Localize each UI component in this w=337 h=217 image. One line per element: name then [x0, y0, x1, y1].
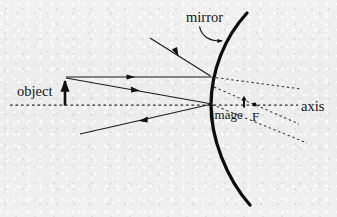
- vertex-incident-ray: [66, 78, 212, 104]
- diagram-canvas: [0, 0, 337, 217]
- reflected-ray-upper: [150, 38, 211, 76]
- reflected-ray-upper-arrowhead: [172, 47, 179, 56]
- object-label: object: [17, 84, 52, 99]
- reflected-ray-lower-arrowhead: [139, 116, 148, 122]
- focal-point-dot: [253, 103, 257, 107]
- axis-label: axis: [301, 99, 324, 114]
- focal-point-label: F: [252, 110, 259, 123]
- image-label: image: [211, 108, 243, 121]
- virtual-extension-upper: [211, 77, 301, 89]
- parallel-incident-ray-arrowhead: [127, 74, 136, 79]
- image-arrow: [241, 96, 246, 108]
- mirror-label: mirror: [186, 10, 223, 25]
- mirror-pointer-arrow: [200, 27, 223, 41]
- vertex-incident-ray-arrowhead: [131, 87, 140, 93]
- ray-diagram-figure: object mirror image F axis: [0, 0, 337, 217]
